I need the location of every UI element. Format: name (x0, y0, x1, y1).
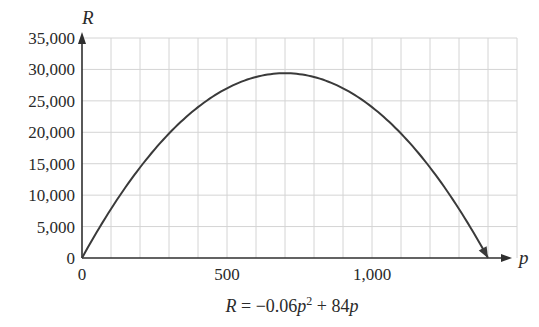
y-tick-label: 10,000 (28, 186, 75, 205)
y-tick-label: 30,000 (28, 60, 75, 79)
x-tick-label: 1,000 (353, 265, 391, 284)
y-tick-label: 0 (67, 249, 76, 268)
equation-var1: p (295, 296, 306, 316)
y-axis-label: R (81, 7, 94, 28)
y-tick-label: 25,000 (28, 92, 75, 111)
equation-eq: = −0.06 (237, 296, 298, 316)
axes (78, 32, 512, 262)
x-tick-label: 500 (214, 265, 240, 284)
equation-mid: + 84 (312, 296, 349, 316)
x-axis-label: p (517, 247, 529, 268)
equation-var2: p (347, 296, 358, 316)
equation-lhs: R (225, 296, 237, 316)
y-tick-label: 5,000 (37, 218, 75, 237)
y-tick-label: 20,000 (28, 123, 75, 142)
grid (82, 38, 517, 258)
x-axis-arrow-icon (501, 254, 512, 262)
y-tick-label: 35,000 (28, 29, 75, 48)
equation-label: R = −0.06p2 + 84p (225, 294, 359, 316)
y-tick-label: 15,000 (28, 155, 75, 174)
chart: 05001,00005,00010,00015,00020,00025,0003… (0, 0, 539, 327)
x-tick-label: 0 (78, 265, 87, 284)
